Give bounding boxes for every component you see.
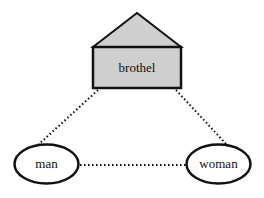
woman-label: woman xyxy=(199,156,238,171)
brothel-label: brothel xyxy=(119,60,156,75)
brothel-node: brothel xyxy=(93,13,181,88)
edge-brothel-man xyxy=(38,90,98,145)
man-label: man xyxy=(35,156,58,171)
woman-node: woman xyxy=(187,145,251,184)
triangle-diagram: brothel man woman xyxy=(0,0,264,198)
man-node: man xyxy=(15,145,79,184)
house-roof xyxy=(93,13,181,47)
edge-brothel-woman xyxy=(176,90,227,145)
